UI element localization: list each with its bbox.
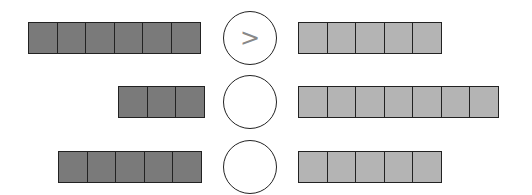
left-square — [142, 22, 172, 54]
left-square — [57, 22, 87, 54]
right-square — [327, 22, 357, 54]
right-square — [412, 22, 442, 54]
left-square — [87, 151, 117, 183]
right-square — [355, 22, 385, 54]
left-square — [118, 86, 148, 118]
left-square — [171, 22, 201, 54]
right-square — [298, 86, 328, 118]
comparison-circle-1[interactable]: > — [223, 11, 277, 65]
right-square — [412, 151, 442, 183]
right-square — [441, 86, 471, 118]
left-square — [115, 151, 145, 183]
right-square — [355, 151, 385, 183]
right-square — [384, 22, 414, 54]
left-square — [28, 22, 58, 54]
comparison-circle-3[interactable] — [223, 140, 277, 194]
right-block-group-2 — [298, 86, 499, 118]
left-square — [172, 151, 202, 183]
right-square — [412, 86, 442, 118]
right-square — [327, 86, 357, 118]
left-square — [85, 22, 115, 54]
right-block-group-3 — [298, 151, 442, 183]
left-square — [144, 151, 174, 183]
comparison-circle-2[interactable] — [223, 75, 277, 129]
left-block-group-3 — [58, 151, 202, 183]
right-square — [298, 22, 328, 54]
right-square — [384, 151, 414, 183]
left-block-group-1 — [28, 22, 201, 54]
left-block-group-2 — [118, 86, 205, 118]
right-square — [298, 151, 328, 183]
right-block-group-1 — [298, 22, 442, 54]
left-square — [114, 22, 144, 54]
comparison-symbol: > — [240, 26, 260, 50]
right-square — [327, 151, 357, 183]
left-square — [58, 151, 88, 183]
left-square — [175, 86, 205, 118]
left-square — [147, 86, 177, 118]
right-square — [469, 86, 499, 118]
right-square — [384, 86, 414, 118]
right-square — [355, 86, 385, 118]
